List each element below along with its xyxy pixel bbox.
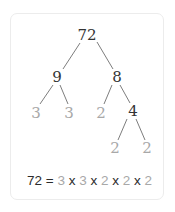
branch-9-3b: [60, 85, 68, 104]
branch-72-9: [63, 43, 80, 69]
node-prime-3a: 3: [31, 106, 41, 121]
node-prime-2a: 2: [96, 106, 106, 121]
branch-4-2a: [118, 119, 127, 140]
node-prime-2b: 2: [110, 141, 120, 156]
branch-9-3a: [40, 85, 53, 104]
factor-2: 3: [79, 173, 87, 188]
factor-5: 2: [145, 173, 153, 188]
node-4: 4: [128, 104, 138, 119]
equals-sign: =: [42, 173, 57, 188]
times-sign: x: [87, 173, 101, 188]
node-prime-2c: 2: [142, 141, 152, 156]
factorization-equation: 72 = 3 x 3 x 2 x 2 x 2: [27, 173, 152, 189]
branch-4-2b: [136, 119, 145, 140]
factor-3: 2: [101, 173, 109, 188]
equation-lhs: 72: [27, 173, 42, 188]
branch-72-8: [97, 42, 113, 69]
times-sign: x: [65, 173, 79, 188]
node-9: 9: [52, 70, 62, 85]
branch-8-4: [120, 85, 130, 103]
node-root: 72: [77, 28, 96, 43]
times-sign: x: [130, 173, 144, 188]
node-8: 8: [112, 70, 122, 85]
times-sign: x: [109, 173, 123, 188]
factor-1: 3: [57, 173, 65, 188]
node-prime-3b: 3: [64, 106, 74, 121]
branch-8-2: [104, 85, 112, 104]
